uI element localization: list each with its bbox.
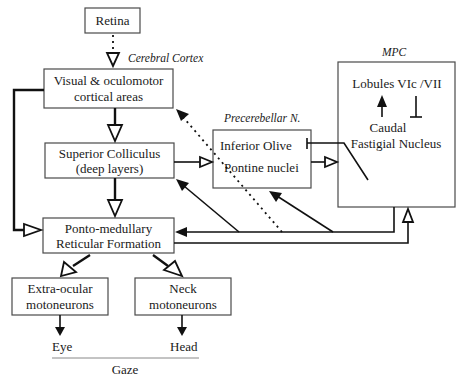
reticular-to-mpc-arrow (174, 209, 413, 243)
precerebellar-node: Inferior Olive Pontine nuclei (213, 130, 311, 188)
neck-to-head-arrow (177, 315, 187, 336)
extraocular-to-eye-arrow (55, 315, 65, 336)
eye-label: Eye (52, 339, 72, 354)
lobules-label: Lobules VIc /VII (352, 76, 441, 91)
neck-label-line2: motoneurons (149, 297, 217, 312)
pontine-nuclei-label: Pontine nuclei (224, 160, 299, 175)
ponto-medullary-node: Ponto-medullary Reticular Formation (43, 218, 174, 253)
head-label: Head (170, 339, 198, 354)
visual-cortex-label-line1: Visual & oculomotor (54, 73, 164, 88)
precerebellar-to-mpc-arrow (311, 157, 337, 167)
fastigial-nucleus-label: Fastigial Nucleus (351, 136, 442, 151)
inferior-olive-label: Inferior Olive (220, 138, 292, 153)
cortex-to-colliculus-arrow (108, 108, 122, 141)
extraocular-node: Extra-ocular motoneurons (12, 278, 108, 315)
colliculus-to-reticular-arrow (108, 178, 122, 216)
retina-node: Retina (85, 8, 140, 33)
retina-label: Retina (96, 13, 130, 28)
fastigial-to-pontine-arrow (269, 191, 333, 232)
retina-to-cortex-arrow (107, 35, 119, 66)
neck-node: Neck motoneurons (135, 278, 231, 315)
gaze-label: Gaze (112, 362, 139, 377)
mpc-node: Lobules VIc /VII Caudal Fastigial Nucleu… (338, 62, 455, 207)
visual-cortex-label-line2: cortical areas (74, 89, 143, 104)
precerebellar-group-label: Precerebellar N. (223, 112, 300, 124)
caudal-label: Caudal (370, 120, 407, 135)
cerebral-cortex-group-label: Cerebral Cortex (128, 52, 204, 64)
superior-colliculus-label-line1: Superior Colliculus (59, 146, 160, 161)
extraocular-label-line2: motoneurons (26, 297, 94, 312)
cortex-to-reticular-arrow (14, 90, 44, 236)
fastigial-to-reticular-arrow (175, 207, 394, 237)
reticular-to-extraocular-arrow (61, 255, 90, 276)
superior-colliculus-label-line2: (deep layers) (76, 161, 144, 176)
superior-colliculus-node: Superior Colliculus (deep layers) (45, 143, 174, 178)
visual-cortex-node: Visual & oculomotor cortical areas (44, 69, 173, 108)
reticular-to-neck-arrow (153, 255, 182, 276)
gaze-control-diagram: Retina Visual & oculomotor cortical area… (0, 0, 467, 382)
ponto-medullary-label-line2: Reticular Formation (56, 236, 162, 251)
neck-label-line1: Neck (169, 281, 197, 296)
extraocular-label-line1: Extra-ocular (28, 281, 94, 296)
ponto-medullary-label-line1: Ponto-medullary (65, 221, 153, 236)
mpc-group-label: MPC (381, 46, 407, 58)
colliculus-to-precerebellar-arrow (174, 157, 212, 167)
